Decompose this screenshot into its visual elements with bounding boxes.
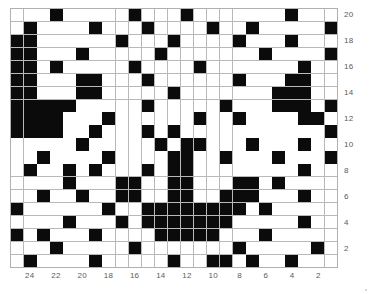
matrix-cell: [233, 255, 245, 267]
matrix-cell: [194, 22, 206, 34]
matrix-cell: [259, 255, 271, 267]
matrix-cell: [259, 216, 271, 228]
matrix-cell: [155, 151, 167, 163]
matrix-cell: [11, 190, 23, 202]
matrix-cell: [298, 9, 310, 21]
matrix-cell: [220, 61, 232, 73]
matrix-cell: [11, 61, 23, 73]
matrix-cell: [298, 138, 310, 150]
matrix-cell: [116, 48, 128, 60]
matrix-cell: [246, 35, 258, 47]
matrix-cell: [220, 203, 232, 215]
matrix-cell: [11, 48, 23, 60]
matrix-cell: [220, 35, 232, 47]
matrix-cell: [11, 216, 23, 228]
matrix-cell: [168, 177, 180, 189]
x-axis-tick-label: 10: [209, 272, 219, 280]
matrix-cell: [220, 125, 232, 137]
matrix-cell: [116, 100, 128, 112]
matrix-cell: [24, 9, 36, 21]
matrix-cell: [298, 100, 310, 112]
matrix-cell: [89, 22, 101, 34]
matrix-cell: [181, 22, 193, 34]
matrix-cell: [298, 125, 310, 137]
matrix-cell: [37, 138, 49, 150]
matrix-cell: [181, 151, 193, 163]
matrix-cell: [11, 22, 23, 34]
matrix-cell: [325, 35, 337, 47]
matrix-cell: [233, 112, 245, 124]
matrix-cell: [207, 22, 219, 34]
matrix-cell: [76, 112, 88, 124]
x-axis-tick-label: 2: [316, 272, 321, 280]
matrix-cell: [155, 229, 167, 241]
x-axis-tick-label: 20: [77, 272, 87, 280]
matrix-cell: [194, 164, 206, 176]
matrix-cell: [311, 125, 323, 137]
matrix-cell: [285, 112, 297, 124]
matrix-cell: [194, 216, 206, 228]
matrix-cell: [155, 61, 167, 73]
matrix-cell: [129, 125, 141, 137]
matrix-cell: [181, 61, 193, 73]
matrix-cell: [63, 48, 75, 60]
matrix-cell: [272, 61, 284, 73]
matrix-cell: [181, 242, 193, 254]
matrix-cell: [168, 61, 180, 73]
matrix-cell: [50, 229, 62, 241]
matrix-cell: [298, 74, 310, 86]
matrix-cell: [116, 138, 128, 150]
matrix-cell: [246, 164, 258, 176]
matrix-cell: [325, 229, 337, 241]
y-axis-tick-label: 12: [344, 115, 354, 123]
y-axis-tick-labels: 2018161412108642: [344, 8, 368, 268]
matrix-cell: [220, 177, 232, 189]
matrix-cell: [89, 242, 101, 254]
matrix-cell: [259, 151, 271, 163]
matrix-cell: [50, 190, 62, 202]
matrix-cell: [63, 61, 75, 73]
matrix-cell: [311, 151, 323, 163]
matrix-cell: [155, 48, 167, 60]
matrix-cell: [142, 229, 154, 241]
matrix-cell: [50, 255, 62, 267]
matrix-cell: [89, 112, 101, 124]
matrix-cell: [168, 242, 180, 254]
matrix-cell: [37, 255, 49, 267]
matrix-cell: [246, 190, 258, 202]
matrix-cell: [325, 164, 337, 176]
matrix-cell: [181, 216, 193, 228]
matrix-cell: [24, 87, 36, 99]
matrix-cell: [194, 151, 206, 163]
x-axis-tick-label: 24: [25, 272, 35, 280]
matrix-cell: [259, 9, 271, 21]
matrix-cell: [246, 100, 258, 112]
matrix-cell: [142, 87, 154, 99]
matrix-cell: [233, 9, 245, 21]
matrix-cell: [325, 9, 337, 21]
matrix-cell: [155, 203, 167, 215]
matrix-cell: [76, 138, 88, 150]
matrix-cell: [129, 35, 141, 47]
matrix-cell: [207, 164, 219, 176]
matrix-cell: [325, 125, 337, 137]
matrix-cell: [233, 61, 245, 73]
x-axis-tick-label: 4: [290, 272, 295, 280]
matrix-cell: [102, 22, 114, 34]
matrix-cell: [116, 177, 128, 189]
matrix-cell: [11, 203, 23, 215]
matrix-cell: [311, 255, 323, 267]
matrix-cell: [89, 229, 101, 241]
matrix-cell: [233, 125, 245, 137]
matrix-cell: [50, 164, 62, 176]
matrix-cell: [181, 203, 193, 215]
matrix-cell: [181, 74, 193, 86]
x-axis-tick-label: 6: [263, 272, 268, 280]
matrix-cell: [24, 242, 36, 254]
matrix-cell: [155, 177, 167, 189]
matrix-cell: [50, 87, 62, 99]
matrix-cell: [116, 242, 128, 254]
matrix-cell: [220, 242, 232, 254]
matrix-cell: [325, 22, 337, 34]
matrix-cell: [311, 177, 323, 189]
